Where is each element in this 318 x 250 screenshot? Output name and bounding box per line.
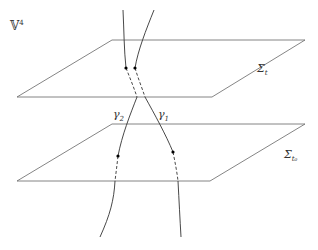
- intersection-dot-gamma1-sigma-t: [133, 66, 136, 69]
- curve-label-sub: 1: [165, 115, 169, 123]
- curve-label-gamma-1: γ1: [158, 109, 169, 123]
- curve-label-sub: 2: [120, 115, 124, 123]
- plane-label-base: Σ: [257, 62, 265, 75]
- space-label-sup: 4: [19, 19, 23, 27]
- curve-label-base: γ: [113, 108, 120, 121]
- plane-label-sub: t₀: [292, 155, 298, 163]
- plane-sigma-t0: [17, 124, 305, 181]
- plane-label-sub: t: [265, 69, 268, 77]
- diagram-canvas: [0, 0, 318, 250]
- plane-label-base: Σ: [284, 148, 292, 161]
- intersection-dot-gamma2-sigma-t: [124, 66, 127, 69]
- space-label-base: 𝕍: [10, 19, 19, 33]
- plane-label-sigma-t: Σt: [257, 63, 268, 77]
- space-label: 𝕍4: [10, 20, 24, 32]
- intersection-dot-gamma2-sigma-t0: [116, 154, 119, 157]
- curve-gamma-1: [135, 10, 181, 237]
- plane-label-sigma-t0: Σt₀: [284, 149, 297, 163]
- curve-label-base: γ: [158, 108, 165, 121]
- curve-label-gamma-2: γ2: [113, 109, 124, 123]
- intersection-dot-gamma1-sigma-t0: [171, 150, 174, 153]
